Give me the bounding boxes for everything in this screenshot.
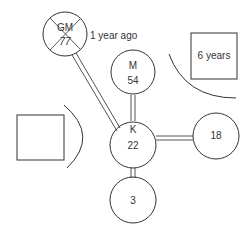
node-gm-age: 77 (59, 36, 71, 47)
edge-gm-k (72, 53, 120, 131)
node-k-age: 22 (127, 140, 139, 151)
genogram-diagram: GM 77 1 year ago M 54 K 22 18 3 6 years (0, 0, 250, 234)
node-3: 3 (110, 177, 156, 223)
node-gm-annotation: 1 year ago (90, 30, 138, 41)
node-k: K 22 (110, 122, 156, 168)
node-18: 18 (193, 113, 239, 159)
node-18-age: 18 (210, 130, 222, 141)
node-square-right-label: 6 years (198, 50, 231, 61)
node-k-name: K (130, 124, 137, 135)
node-m: M 54 (111, 50, 155, 94)
node-m-age: 54 (127, 75, 139, 86)
boundary-arc-left (64, 105, 83, 168)
node-m-name: M (129, 60, 137, 71)
node-square-left (17, 115, 64, 160)
edge-k-18 (156, 136, 193, 140)
edge-m-k (131, 95, 135, 121)
node-square-right: 6 years (191, 33, 237, 79)
node-3-age: 3 (130, 195, 136, 206)
node-gm-name: GM (57, 22, 73, 33)
node-gm: GM 77 (43, 12, 87, 56)
